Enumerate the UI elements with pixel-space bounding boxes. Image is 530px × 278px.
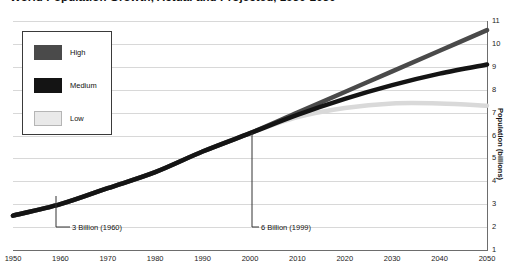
annotation-6-billion: 6 Billion (1999) bbox=[261, 223, 311, 232]
annotation-3-billion: 3 Billion (1960) bbox=[72, 223, 122, 232]
annotation-leader-6-billion bbox=[252, 133, 259, 227]
population-chart: World Population Growth, Actual and Proj… bbox=[0, 0, 530, 278]
legend-label-high: High bbox=[70, 48, 85, 57]
x-tick-1960: 1960 bbox=[52, 254, 69, 263]
x-tick-2000: 2000 bbox=[242, 254, 259, 263]
y-tick-11: 11 bbox=[492, 17, 500, 25]
y-tick-2: 2 bbox=[492, 223, 496, 231]
y-tick-1: 1 bbox=[492, 246, 496, 254]
legend-item-high[interactable]: High bbox=[34, 45, 85, 60]
x-tick-2030: 2030 bbox=[384, 254, 401, 263]
y-tick-8: 8 bbox=[492, 86, 496, 94]
x-tick-2050: 2050 bbox=[479, 254, 496, 263]
y-tick-10: 10 bbox=[492, 40, 500, 48]
legend-label-low: Low bbox=[70, 114, 84, 123]
x-tick-1980: 1980 bbox=[147, 254, 164, 263]
x-tick-1970: 1970 bbox=[99, 254, 116, 263]
y-axis-title: Population (billions) bbox=[496, 108, 505, 180]
x-tick-1950: 1950 bbox=[5, 254, 22, 263]
x-tick-1990: 1990 bbox=[194, 254, 211, 263]
y-tick-9: 9 bbox=[492, 63, 496, 71]
legend-item-low[interactable]: Low bbox=[34, 111, 84, 126]
legend-swatch-medium bbox=[34, 78, 62, 93]
x-tick-2020: 2020 bbox=[336, 254, 353, 263]
legend-item-medium[interactable]: Medium bbox=[34, 78, 97, 93]
legend-swatch-high bbox=[34, 45, 62, 60]
legend: High Medium Low bbox=[22, 31, 112, 135]
x-tick-2010: 2010 bbox=[289, 254, 306, 263]
y-tick-3: 3 bbox=[492, 200, 496, 208]
legend-label-medium: Medium bbox=[70, 81, 97, 90]
legend-swatch-low bbox=[34, 111, 62, 126]
x-tick-2040: 2040 bbox=[431, 254, 448, 263]
